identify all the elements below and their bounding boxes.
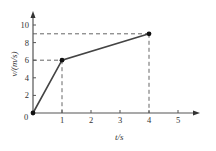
y-tick-label: 4 (25, 73, 30, 83)
velocity-time-chart: 12345246810 0 t/s v/(m/s) (0, 0, 216, 151)
series-line (33, 34, 149, 113)
y-axis-label: v/(m/s) (9, 52, 19, 77)
dashed-guides (33, 34, 149, 113)
y-tick-label: 10 (21, 20, 30, 30)
x-axis-label: t/s (115, 132, 124, 142)
y-tick-label: 2 (25, 90, 29, 100)
y-tick-label: 6 (25, 55, 29, 65)
data-point-marker (60, 58, 65, 63)
data-point-marker (31, 111, 36, 116)
x-tick-label: 5 (176, 115, 180, 125)
x-tick-label: 4 (147, 115, 152, 125)
data-series (31, 31, 152, 115)
y-axis-arrow-icon (31, 11, 36, 18)
y-tick-label: 8 (25, 38, 29, 48)
ticks: 12345246810 (21, 20, 181, 125)
data-point-marker (147, 31, 152, 36)
x-axis-arrow-icon (193, 111, 200, 116)
x-tick-label: 1 (60, 115, 64, 125)
x-tick-label: 3 (118, 115, 122, 125)
origin-label: 0 (24, 112, 28, 122)
x-tick-label: 2 (89, 115, 93, 125)
axes (31, 11, 201, 116)
